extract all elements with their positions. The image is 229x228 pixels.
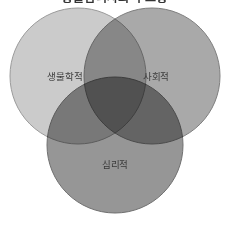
venn-circle-psychological (47, 77, 183, 213)
venn-svg (0, 0, 229, 228)
venn-diagram-figure: 생물심리사회적 모형 생물학적 사회적 심리적 (0, 0, 229, 228)
